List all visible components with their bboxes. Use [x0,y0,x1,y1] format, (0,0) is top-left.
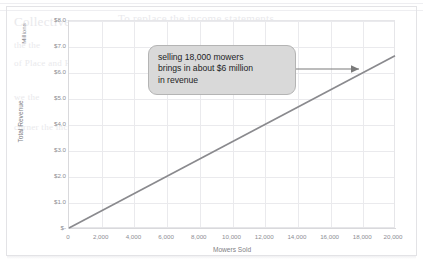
x-tick-label: 14,000 [287,234,306,240]
y-tick-label: $- [26,225,66,231]
x-tick-label: 2,000 [93,234,108,240]
y-tick-label: $4.0 [26,121,66,127]
x-tick-label: 4,000 [126,234,141,240]
gridline-horizontal [69,21,394,22]
gridline-vertical [363,21,364,227]
callout-text-line: selling 18,000 mowers [158,52,287,63]
annotation-callout[interactable]: selling 18,000 mowers brings in about $6… [148,45,296,95]
gridline-horizontal [69,203,394,204]
y-tick-label: $7.0 [26,43,66,49]
x-tick-label: 10,000 [222,234,241,240]
y-tick-label: $1.0 [26,199,66,205]
gridline-horizontal [69,177,394,178]
callout-text-line: brings in about $6 million [158,63,287,74]
gridline-horizontal [69,125,394,126]
y-axis-line [68,20,69,229]
gridline-vertical [298,21,299,227]
x-tick-label: 16,000 [320,234,339,240]
x-axis-tick-labels: 0 2,000 4,000 6,000 8,000 10,000 12,000 … [68,234,396,246]
gridline-horizontal [69,99,394,100]
gridline-horizontal [69,151,394,152]
y-axis-title: Total Revenue [17,52,24,192]
callout-text-line: in revenue [158,75,287,86]
x-tick-label: 12,000 [255,234,274,240]
revenue-line-chart: $8.0 $7.0 $6.0 $5.0 $4.0 $3.0 $2.0 $1.0 … [6,6,415,254]
x-tick-label: 0 [66,234,69,240]
x-axis-line [68,228,396,229]
gridline-vertical [134,21,135,227]
y-tick-label: $2.0 [26,173,66,179]
x-tick-label: 6,000 [158,234,173,240]
sheet-shadow [7,256,416,259]
gridline-vertical [331,21,332,227]
y-axis-tick-labels: $8.0 $7.0 $6.0 $5.0 $4.0 $3.0 $2.0 $1.0 … [22,6,66,254]
x-tick-label: 8,000 [191,234,206,240]
y-axis-unit-label: Millions [20,14,27,54]
y-tick-label: $5.0 [26,95,66,101]
x-tick-label: 18,000 [353,234,372,240]
gridline-vertical [102,21,103,227]
y-tick-label: $6.0 [26,69,66,75]
x-tick-label: 20,000 [384,234,403,240]
y-tick-label: $8.0 [26,17,66,23]
y-tick-label: $3.0 [26,147,66,153]
x-axis-title: Mowers Sold [68,246,396,253]
